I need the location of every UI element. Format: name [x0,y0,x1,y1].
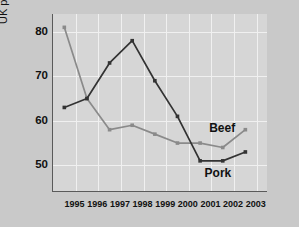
data-point-beef-2 [108,128,112,132]
series-label-beef: Beef [209,121,235,135]
x-tick-2003: 2003 [239,199,273,209]
series-lines [53,14,268,192]
y-tick-50: 50 [16,158,48,170]
data-point-pork-5 [176,115,180,119]
data-point-beef-7 [221,146,225,150]
y-tick-80: 80 [16,25,48,37]
line-chart: UK production ('000 tonnes) 50607080 Bee… [0,0,299,227]
data-point-beef-5 [176,141,180,145]
data-point-pork-3 [130,39,134,43]
data-point-pork-8 [244,150,248,154]
plot-area: BeefPork [52,14,267,192]
data-point-pork-1 [85,97,89,101]
series-line-pork [64,41,245,161]
data-point-pork-0 [63,106,67,110]
data-point-pork-6 [198,159,202,163]
y-axis-title: UK production ('000 tonnes) [0,0,9,24]
data-point-beef-3 [130,123,134,127]
x-axis-tick-labels: 199519961997199819992000200120022003 [52,199,267,213]
data-point-beef-4 [153,132,157,136]
series-label-pork: Pork [205,166,232,180]
y-axis-tick-labels: 50607080 [14,14,48,192]
data-point-beef-0 [63,26,67,30]
y-tick-70: 70 [16,69,48,81]
data-point-pork-7 [221,159,225,163]
y-tick-60: 60 [16,114,48,126]
data-point-pork-4 [153,79,157,83]
data-point-pork-2 [108,61,112,65]
data-point-beef-6 [198,141,202,145]
data-point-beef-8 [244,128,248,132]
